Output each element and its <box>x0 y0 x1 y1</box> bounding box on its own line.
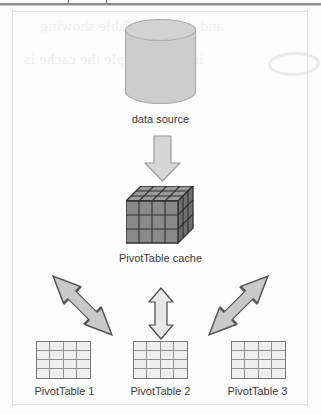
grid-cell <box>134 351 147 360</box>
pivottable-cache-cube <box>126 186 194 244</box>
grid-cell <box>245 351 258 360</box>
arrow-cache-to-pivottable-2-icon <box>149 288 173 339</box>
grid-cell <box>64 360 77 369</box>
cylinder-bottom-edge <box>125 82 196 104</box>
grid-cell <box>232 360 245 369</box>
pivottable-3-label: PivotTable 3 <box>205 385 310 397</box>
pivottable-2-label: PivotTable 2 <box>108 385 213 397</box>
grid-cell <box>37 342 50 351</box>
grid-cell <box>77 369 90 378</box>
grid-cell <box>174 342 187 351</box>
grid-cell <box>50 351 63 360</box>
pivottable-2-grid <box>133 341 188 379</box>
grid-cell <box>77 360 90 369</box>
grid-cell <box>50 369 63 378</box>
grid-cell <box>147 369 160 378</box>
pivottable-3-grid <box>231 341 286 379</box>
grid-cell <box>77 351 90 360</box>
grid-cell <box>161 360 174 369</box>
grid-cell <box>259 342 272 351</box>
cylinder-top-ellipse <box>125 19 196 41</box>
arrow-cache-to-pivottable-1-icon <box>45 268 121 344</box>
grid-cell <box>64 351 77 360</box>
grid-cell <box>232 351 245 360</box>
grid-cell <box>134 369 147 378</box>
grid-cell <box>50 360 63 369</box>
pivottable-1-label: PivotTable 1 <box>12 385 117 397</box>
grid-cell <box>37 351 50 360</box>
grid-cell <box>259 369 272 378</box>
grid-cell <box>50 342 63 351</box>
grid-cell <box>147 351 160 360</box>
grid-cell <box>259 351 272 360</box>
arrow-source-to-cache-icon <box>145 136 180 181</box>
grid-cell <box>245 369 258 378</box>
grid-cell <box>161 342 174 351</box>
grid-cell <box>232 342 245 351</box>
grid-cell <box>64 369 77 378</box>
grid-cell <box>245 342 258 351</box>
grid-cell <box>147 342 160 351</box>
grid-cell <box>272 360 285 369</box>
grid-cell <box>161 369 174 378</box>
grid-cell <box>245 360 258 369</box>
grid-cell <box>272 342 285 351</box>
pivottable-1-grid <box>36 341 91 379</box>
grid-cell <box>174 351 187 360</box>
grid-cell <box>272 369 285 378</box>
grid-cell <box>174 369 187 378</box>
grid-cell <box>174 360 187 369</box>
grid-cell <box>161 351 174 360</box>
grid-cell <box>77 342 90 351</box>
pivottable-cache-diagram: data source <box>0 0 321 415</box>
data-source-cylinder <box>125 19 196 104</box>
grid-cell <box>64 342 77 351</box>
arrow-cache-to-pivottable-3-icon <box>201 268 277 344</box>
grid-cell <box>147 360 160 369</box>
grid-cell <box>37 360 50 369</box>
grid-cell <box>259 360 272 369</box>
data-source-label: data source <box>0 113 321 125</box>
grid-cell <box>134 342 147 351</box>
pivottable-cache-label: PivotTable cache <box>0 252 321 264</box>
grid-cell <box>37 369 50 378</box>
grid-cell <box>134 360 147 369</box>
grid-cell <box>272 351 285 360</box>
grid-cell <box>232 369 245 378</box>
